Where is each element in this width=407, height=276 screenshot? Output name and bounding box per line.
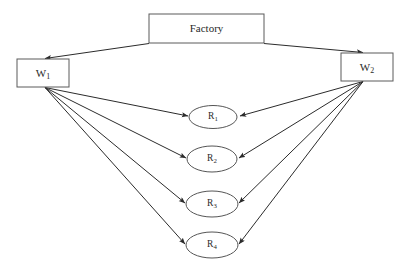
edge-warehouse-2-to-retailer-2: [239, 82, 363, 159]
node-retailer-4[interactable]: R4: [186, 232, 238, 258]
retailer-4-label-subscript: 4: [213, 243, 217, 250]
warehouse-1-label-base: W: [36, 66, 47, 78]
edge-group-warehouse-2-to-retailers: [239, 82, 363, 245]
node-retailer-1[interactable]: R1: [189, 106, 237, 129]
edge-warehouse-1-to-retailer-2: [45, 88, 186, 159]
warehouse-1-label-subscript: 1: [46, 72, 50, 81]
edge-warehouse-1-to-retailer-3: [45, 88, 185, 204]
edge-factory-to-warehouse-1: [45, 44, 149, 59]
edge-warehouse-2-to-retailer-4: [239, 82, 363, 245]
retailer-1-label-subscript: 1: [214, 115, 217, 122]
node-factory[interactable]: Factory: [149, 14, 264, 43]
node-warehouse-1[interactable]: W1: [17, 59, 69, 87]
network-diagram: Factory W1 W2 R1 R2: [0, 0, 407, 276]
warehouse-2-label-subscript: 2: [370, 66, 374, 75]
retailer-3-label-subscript: 3: [213, 202, 217, 209]
edge-warehouse-2-to-retailer-1: [240, 82, 363, 117]
edge-group-warehouse-1-to-retailers: [45, 88, 188, 245]
diagram-canvas: Factory W1 W2 R1 R2: [0, 0, 407, 276]
node-retailer-2[interactable]: R2: [187, 146, 237, 172]
edge-warehouse-2-to-retailer-3: [239, 82, 363, 204]
node-retailer-3[interactable]: R3: [186, 191, 238, 217]
edge-group-factory-to-warehouses: [45, 44, 363, 59]
warehouse-2-label-base: W: [360, 60, 371, 72]
factory-label: Factory: [190, 22, 224, 34]
edge-factory-to-warehouse-2: [264, 44, 363, 53]
retailer-2-label-subscript: 2: [213, 157, 217, 164]
node-warehouse-2[interactable]: W2: [341, 53, 393, 81]
